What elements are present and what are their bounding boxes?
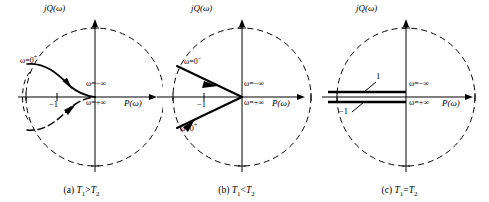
panel-b-real-axis-label: P(ω) [272,99,290,108]
curve-dashed-arrowhead [64,104,76,115]
panel-c-plot [318,0,489,180]
panel-b-caption: (b) T1<T2 [155,185,318,198]
imaginary-axis-arrowhead [239,19,245,27]
panel-b-upper-sup: − [198,55,201,61]
panel-a-limit-plus: ω=+∞ [86,99,106,107]
panel-b-limit-minus: ω=−∞ [244,80,264,88]
panel-c-lower-tick-label: −1 [339,107,348,116]
curve-solid-upper [27,64,95,97]
panel-c-caption-prefix: (c) [382,185,393,195]
panel-c-caption: (c) T1=T2 [318,185,481,198]
nyquist-figure: jQ(ω) P(ω) −1 ω=0+ ω=−∞ ω=+∞ (a) T1>T2 [0,0,489,202]
panel-b-upper-text: ω=0 [184,57,198,66]
panel-c: jQ(ω) P(ω) 1 −1 ω=−∞ ω=+∞ (c) T1=T2 [318,0,481,202]
leader-upper [364,82,376,92]
panel-b-lower-text: ω=0 [180,124,194,133]
curve-dashed-lower [27,97,95,130]
panel-b-limit-plus: ω=+∞ [244,99,264,107]
panel-a-cond-sub-right: 2 [96,190,100,198]
ray-upper [177,66,242,97]
real-axis-arrowhead [297,94,305,100]
real-axis-arrowhead [465,94,473,100]
panel-a-plot [0,0,163,180]
panel-a-tick-label: −1 [49,100,58,109]
panel-b: jQ(ω) P(ω) −1 ω=0− ω=0+ ω=−∞ ω=+∞ (b) T1… [155,0,318,202]
panel-b-tick-label: −1 [197,100,206,109]
panel-c-limit-minus: ω=−∞ [409,80,429,88]
panel-b-upper-label: ω=0− [184,55,201,66]
panel-b-lower-sup: + [194,122,197,128]
panel-a-caption: (a) T1>T2 [0,185,163,198]
panel-b-cond-sub-right: 2 [251,190,255,198]
panel-b-lower-label: ω=0+ [180,122,197,133]
panel-a-imaginary-axis-label: jQ(ω) [44,4,65,13]
leader-lower [352,102,364,112]
panel-a-caption-prefix: (a) [64,185,75,195]
panel-b-plot [155,0,318,180]
panel-c-imaginary-axis-label: jQ(ω) [356,4,377,13]
panel-a: jQ(ω) P(ω) −1 ω=0+ ω=−∞ ω=+∞ (a) T1>T2 [0,0,163,202]
panel-b-caption-prefix: (b) [218,185,229,195]
imaginary-axis-arrowhead [403,19,409,27]
panel-a-start-text: ω=0 [20,56,34,65]
panel-a-start-sup: + [34,54,37,60]
panel-c-upper-tick-label: 1 [376,72,380,81]
imaginary-axis-arrowhead [92,19,98,27]
panel-c-real-axis-label: P(ω) [442,99,460,108]
panel-a-limit-minus: ω=−∞ [86,80,106,88]
panel-c-limit-plus: ω=+∞ [409,99,429,107]
panel-a-start-label: ω=0+ [20,54,37,65]
panel-b-imaginary-axis-label: jQ(ω) [191,4,212,13]
panel-a-real-axis-label: P(ω) [124,99,142,108]
panel-c-cond-sub-right: 2 [414,190,418,198]
